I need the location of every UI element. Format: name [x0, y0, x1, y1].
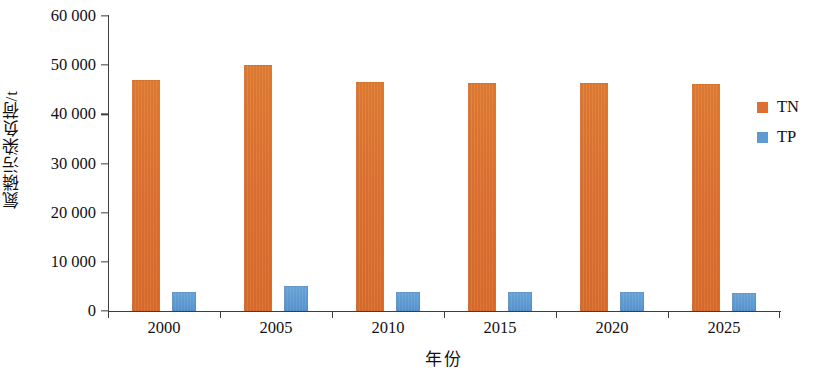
- bar-tn: [132, 80, 160, 311]
- bar-group: [356, 16, 420, 311]
- x-axis-title: 年份: [108, 345, 780, 370]
- y-axis-tick-label: 40 000: [51, 104, 96, 124]
- bar-tp: [732, 293, 756, 311]
- bar-chart-figure: 氮磷污染负荷/t 010 00020 00030 00040 00050 000…: [0, 0, 818, 379]
- bar-tp: [172, 292, 196, 311]
- bar-tn: [580, 83, 608, 311]
- bar-group: [132, 16, 196, 311]
- y-axis-title: 氮磷污染负荷/t: [2, 90, 28, 209]
- x-axis-tick: [444, 311, 445, 318]
- bar-group: [580, 16, 644, 311]
- bar-group: [692, 16, 756, 311]
- bar-group: [468, 16, 532, 311]
- legend-label: TP: [777, 127, 796, 147]
- bar-tp: [620, 292, 644, 311]
- bar-tn: [356, 82, 384, 311]
- x-axis-tick: [556, 311, 557, 318]
- plot-area: [108, 16, 780, 311]
- legend-item[interactable]: TN: [757, 92, 817, 122]
- x-axis-tick-label: 2000: [148, 318, 181, 338]
- y-axis-tick: [101, 261, 108, 262]
- bar-group: [244, 16, 308, 311]
- y-axis-tick: [101, 310, 108, 311]
- y-axis-tick-label: 0: [88, 301, 96, 321]
- x-axis-tick: [220, 311, 221, 318]
- x-axis-tick: [108, 311, 109, 318]
- bar-tp: [284, 286, 308, 311]
- y-axis-tick: [101, 15, 108, 16]
- bar-tp: [508, 292, 532, 311]
- legend-item[interactable]: TP: [757, 122, 817, 152]
- x-axis-tick-label: 2025: [708, 318, 741, 338]
- x-axis-tick-label: 2020: [596, 318, 629, 338]
- y-axis-tick-labels: 010 00020 00030 00040 00050 00060 000: [28, 0, 102, 379]
- legend-label: TN: [777, 97, 799, 117]
- bar-tn: [692, 84, 720, 311]
- chart-legend: TNTP: [757, 92, 817, 152]
- bar-tn: [244, 65, 272, 311]
- x-axis-tick-label: 2010: [372, 318, 405, 338]
- y-axis-tick: [101, 65, 108, 66]
- y-axis-tick-label: 50 000: [51, 55, 96, 75]
- legend-swatch-icon: [757, 132, 768, 143]
- bar-tn: [468, 83, 496, 311]
- y-axis-tick: [101, 212, 108, 213]
- y-axis-tick-label: 10 000: [51, 252, 96, 272]
- y-axis-tick-label: 30 000: [51, 154, 96, 174]
- legend-swatch-icon: [757, 102, 768, 113]
- y-axis-tick-label: 20 000: [51, 203, 96, 223]
- x-axis-tick: [668, 311, 669, 318]
- x-axis-tick: [332, 311, 333, 318]
- y-axis-tick-label: 60 000: [51, 6, 96, 26]
- x-axis-tick-label: 2005: [260, 318, 293, 338]
- y-axis-tick: [101, 114, 108, 115]
- y-axis-tick: [101, 163, 108, 164]
- x-axis-tick-label: 2015: [484, 318, 517, 338]
- x-axis-tick: [779, 311, 780, 318]
- bar-tp: [396, 292, 420, 311]
- x-axis-tick-labels: 200020052010201520202025: [108, 318, 780, 344]
